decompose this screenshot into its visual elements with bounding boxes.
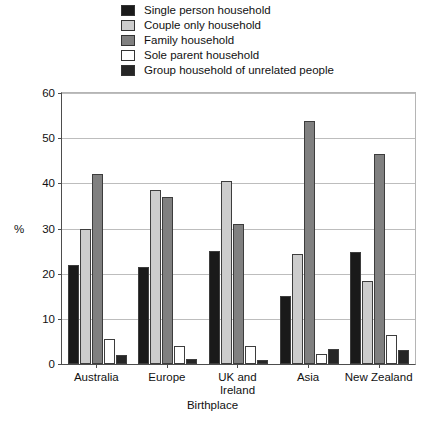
bar[interactable] [162,197,173,364]
legend-swatch-icon [121,20,135,31]
x-tick-mark [379,364,380,368]
legend-item-label: Couple only household [144,19,261,32]
bar[interactable] [386,335,397,364]
x-tick-label-line: New Zealand [343,371,414,384]
bar-group [203,93,274,364]
x-tick: New Zealand [343,364,414,397]
y-tick-label: 50 [42,132,55,144]
x-tick: Europe [132,364,203,397]
y-tick-label: 30 [42,223,55,235]
x-tick-mark [96,364,97,368]
x-tick-label-line: Asia [273,371,344,384]
bar[interactable] [209,251,220,364]
bar[interactable] [362,281,373,364]
y-tick-label: 0 [49,358,55,370]
legend-swatch-icon [121,50,135,61]
bar[interactable] [328,349,339,364]
bar-group [274,93,345,364]
bar[interactable] [304,121,315,364]
chart-legend: Single person householdCouple only house… [121,3,421,78]
bar[interactable] [150,190,161,364]
x-tick-label: UK andIreland [202,371,273,397]
legend-swatch-icon [121,5,135,16]
bar[interactable] [68,265,79,364]
legend-item-label: Family household [144,34,234,47]
x-tick: UK andIreland [202,364,273,397]
bar[interactable] [138,267,149,364]
bar[interactable] [92,174,103,364]
y-axis-label: % [14,223,24,235]
legend-item-label: Group household of unrelated people [144,64,334,77]
legend-swatch-icon [121,65,135,76]
x-tick: Asia [273,364,344,397]
legend-item[interactable]: Single person household [121,3,421,18]
legend-item[interactable]: Couple only household [121,18,421,33]
legend-item-label: Sole parent household [144,49,259,62]
x-tick-mark [167,364,168,368]
bar-groups [62,93,415,364]
x-tick-label-line: Australia [61,371,132,384]
x-tick-label-line: UK and [202,371,273,384]
x-axis: AustraliaEuropeUK andIrelandAsiaNew Zeal… [61,364,414,397]
bar[interactable] [80,229,91,365]
bar[interactable] [374,154,385,364]
y-tick-label: 10 [42,313,55,325]
bar-group [62,93,133,364]
bar[interactable] [104,339,115,364]
legend-item[interactable]: Family household [121,33,421,48]
bar[interactable] [174,346,185,364]
bar[interactable] [398,350,409,364]
bar[interactable] [316,354,327,364]
bar-group [133,93,204,364]
y-tick-label: 40 [42,177,55,189]
legend-item[interactable]: Group household of unrelated people [121,63,421,78]
bar[interactable] [116,355,127,364]
legend-item[interactable]: Sole parent household [121,48,421,63]
x-tick-label: Asia [273,371,344,384]
legend-swatch-icon [121,35,135,46]
bar-group [344,93,415,364]
x-tick: Australia [61,364,132,397]
x-tick-label: Europe [132,371,203,384]
x-tick-label-line: Ireland [202,384,273,397]
x-tick-label-line: Europe [132,371,203,384]
x-tick-mark [308,364,309,368]
x-tick-label: Australia [61,371,132,384]
bar[interactable] [245,346,256,364]
bar[interactable] [280,296,291,364]
bar[interactable] [233,224,244,364]
chart-page: Single person householdCouple only house… [0,0,425,421]
bar[interactable] [292,254,303,364]
legend-item-label: Single person household [144,4,271,17]
bar[interactable] [350,252,361,364]
bar[interactable] [221,181,232,364]
plot-area: 0102030405060 [61,92,416,365]
x-tick-label: New Zealand [343,371,414,384]
x-axis-label: Birthplace [0,399,425,411]
y-tick-label: 20 [42,268,55,280]
x-tick-mark [237,364,238,368]
y-tick-label: 60 [42,87,55,99]
